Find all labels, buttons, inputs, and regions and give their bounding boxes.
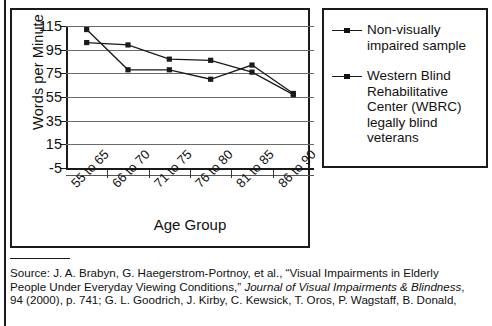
series-line	[87, 43, 294, 95]
legend-line-marker-icon	[332, 70, 362, 84]
legend-label-2: Western Blind Rehabilitative Center (WBR…	[367, 68, 462, 146]
source-text: Source: J. A. Brabyn, G. Haegerstrom-Por…	[10, 266, 482, 307]
page-left-rule	[4, 0, 6, 326]
plot-area: 115 95 75 55 35 15 -5 55 to 65 66 to 70 …	[66, 26, 314, 168]
source-line-1-text: Source: J. A. Brabyn, G. Haegerstrom-Por…	[10, 266, 439, 279]
legend-entry-non-visually-impaired: Non-visually impaired sample	[332, 22, 466, 53]
ytick-label-115: 115	[16, 19, 62, 34]
data-point-marker	[249, 62, 254, 67]
source-note: Source: J. A. Brabyn, G. Haegerstrom-Por…	[10, 258, 482, 307]
legend-label-2-line3: Center (WBRC)	[367, 99, 462, 115]
legend-line-marker-icon	[332, 24, 362, 38]
xtick	[273, 170, 274, 178]
legend-box: Non-visually impaired sample Western Bli…	[322, 8, 488, 168]
series-1	[84, 40, 296, 97]
source-line-3: 94 (2000), p. 741; G. L. Goodrich, J. Ki…	[10, 293, 482, 307]
legend-label-1: Non-visually impaired sample	[367, 22, 466, 53]
ytick-label-75: 75	[16, 66, 62, 81]
data-point-marker	[84, 27, 89, 32]
source-journal-name: Journal of Visual Impairments & Blindnes…	[244, 280, 461, 293]
series-line	[87, 30, 294, 94]
xtick	[231, 170, 232, 178]
legend-label-2-line4: legally blind	[367, 115, 462, 131]
ytick-label-15: 15	[16, 137, 62, 152]
ytick-label-95: 95	[16, 43, 62, 58]
source-line-2-text: People Under Everyday Viewing Conditions…	[10, 280, 244, 293]
source-line-1: Source: J. A. Brabyn, G. Haegerstrom-Por…	[10, 266, 482, 280]
data-point-marker	[167, 67, 172, 72]
legend-label-1-line2: impaired sample	[367, 38, 466, 54]
legend-label-1-line1: Non-visually	[367, 22, 466, 38]
ytick-label--5: -5	[16, 161, 62, 176]
ytick-label-35: 35	[16, 114, 62, 129]
source-line-2-tail: ,	[461, 280, 464, 293]
ytick-label-55: 55	[16, 90, 62, 105]
xtick	[107, 170, 108, 178]
data-point-marker	[249, 70, 254, 75]
series-0	[84, 27, 296, 96]
chart-frame: Words per Minute 115 95 75 55 35 15 -5	[10, 8, 310, 248]
data-point-marker	[208, 77, 213, 82]
data-point-marker	[84, 40, 89, 45]
data-point-marker	[167, 57, 172, 62]
source-line-3-text: 94 (2000), p. 741; G. L. Goodrich, J. Ki…	[10, 293, 457, 306]
legend-label-2-line1: Western Blind	[367, 68, 462, 84]
legend-label-2-line2: Rehabilitative	[367, 84, 462, 100]
xtick	[190, 170, 191, 178]
data-point-marker	[125, 42, 130, 47]
data-point-marker	[291, 92, 296, 97]
data-point-marker	[208, 58, 213, 63]
xtick	[149, 170, 150, 178]
x-axis-band	[66, 168, 314, 176]
legend-label-2-line5: veterans	[367, 130, 462, 146]
source-divider	[10, 258, 70, 259]
figure-block: Words per Minute 115 95 75 55 35 15 -5	[10, 6, 488, 252]
series-lines	[66, 26, 314, 168]
data-point-marker	[125, 67, 130, 72]
source-line-2: People Under Everyday Viewing Conditions…	[10, 280, 482, 294]
x-axis-title: Age Group	[66, 216, 314, 233]
legend-entry-wbrc-veterans: Western Blind Rehabilitative Center (WBR…	[332, 68, 462, 146]
